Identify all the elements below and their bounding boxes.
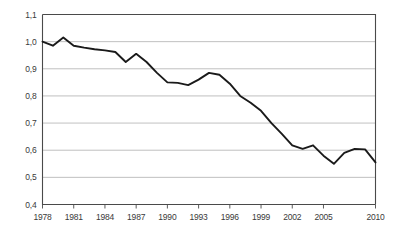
chart-canvas: 0,40,50,60,70,80,91,01,1 197819811984198… bbox=[0, 0, 396, 237]
x-axis-tick-label: 1996 bbox=[221, 212, 240, 222]
y-axis-tick-label: 1,1 bbox=[25, 10, 37, 20]
chart-background bbox=[0, 0, 396, 237]
y-axis-tick-label: 0,7 bbox=[25, 118, 37, 128]
x-axis-tick-label: 1978 bbox=[33, 212, 52, 222]
x-axis-tick-label: 1981 bbox=[65, 212, 84, 222]
x-axis-tick-label: 1987 bbox=[127, 212, 146, 222]
x-axis-tick-label: 1990 bbox=[158, 212, 177, 222]
x-axis-tick-label: 2002 bbox=[283, 212, 302, 222]
y-axis-tick-label: 0,9 bbox=[25, 64, 37, 74]
x-axis-tick-label: 1993 bbox=[190, 212, 209, 222]
y-axis-tick-label: 0,8 bbox=[25, 91, 37, 101]
x-axis-tick-label: 1984 bbox=[96, 212, 115, 222]
x-axis-tick-label: 2005 bbox=[314, 212, 333, 222]
line-chart: 0,40,50,60,70,80,91,01,1 197819811984198… bbox=[0, 0, 396, 237]
x-axis-tick-label: 1999 bbox=[252, 212, 271, 222]
x-axis-tick-label: 2010 bbox=[366, 212, 385, 222]
y-axis-tick-label: 1,0 bbox=[25, 37, 37, 47]
y-axis-tick-label: 0,6 bbox=[25, 145, 37, 155]
y-axis-tick-label: 0,4 bbox=[25, 200, 37, 210]
y-axis-tick-label: 0,5 bbox=[25, 172, 37, 182]
